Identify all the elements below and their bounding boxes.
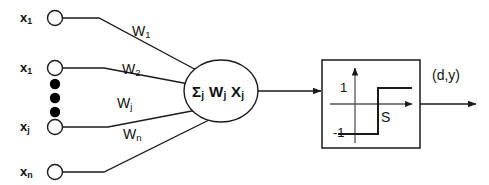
weight-label-1: W1	[132, 24, 151, 40]
input-label-1: x1	[20, 11, 32, 26]
input-label-2: x1	[20, 61, 32, 76]
weight-label-j-base: W	[117, 95, 130, 111]
summation-expression: Σj Wj Xj	[192, 84, 244, 101]
activation-threshold-label: S	[381, 110, 390, 124]
input-label-1-sub: 1	[27, 16, 32, 26]
vertical-ellipsis-dots	[50, 79, 60, 117]
input-label-4: xn	[20, 165, 33, 180]
input-label-2-sub: 1	[27, 66, 32, 76]
input-label-4-sub: n	[27, 170, 32, 180]
input-term-base: X	[231, 83, 241, 100]
ellipsis-dot-1	[50, 79, 60, 89]
input-circle-4	[48, 165, 63, 180]
weight-label-j: Wj	[117, 96, 132, 112]
input-circle-1	[48, 11, 63, 26]
weight-term-base: W	[209, 83, 223, 100]
connector-wj	[63, 110, 197, 127]
input-label-3: xj	[20, 120, 30, 135]
activation-lower-level-label: -1	[333, 126, 345, 139]
input-term-sub: j	[241, 90, 244, 101]
weight-label-n-base: W	[123, 126, 136, 142]
activation-upper-level-label: 1	[340, 81, 347, 94]
weight-label-n-sub: n	[136, 132, 141, 143]
output-label: (d,y)	[432, 68, 460, 82]
diagram-canvas: x1 x1 xj xn W1 W2 Wj Wn Σj Wj Xj 1 -1 S …	[0, 0, 489, 185]
ellipsis-dot-2	[50, 93, 60, 103]
ellipsis-dot-3	[50, 107, 60, 117]
weight-label-1-sub: 1	[145, 29, 150, 40]
sigma-symbol: Σ	[192, 83, 201, 100]
weight-label-2-base: W	[122, 61, 135, 77]
weight-label-2-sub: 2	[135, 67, 140, 78]
input-circle-3	[48, 120, 63, 135]
weight-label-1-base: W	[132, 23, 145, 39]
input-circle-2	[48, 61, 63, 76]
weight-label-2: W2	[122, 62, 141, 78]
input-label-3-sub: j	[27, 125, 29, 135]
diagram-vector-layer	[0, 0, 489, 185]
weight-label-j-sub: j	[130, 101, 132, 112]
weight-label-n: Wn	[123, 127, 142, 143]
